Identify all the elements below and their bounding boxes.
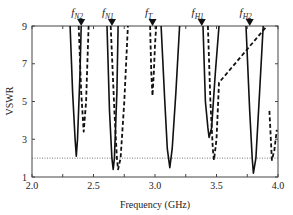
series-dashed: [111, 26, 128, 169]
y-axis-label: VSWR: [4, 86, 15, 115]
y-tick-label: 5: [22, 96, 27, 107]
y-tick-label: 1: [22, 172, 27, 183]
y-tick-label: 7: [22, 58, 27, 69]
y-tick-label: 3: [22, 134, 27, 145]
x-tick-label: 2.0: [26, 180, 39, 191]
marker-label: fN1: [102, 6, 114, 21]
marker-label: fH1: [192, 6, 204, 21]
marker-label: fH2: [240, 6, 252, 21]
x-tick-label: 3.0: [149, 180, 162, 191]
series-dashed: [269, 111, 276, 160]
vswr-chart: fN2fN1fTfH1fH2 2.02.53.03.54.013579 Freq…: [0, 0, 293, 215]
x-tick-label: 3.5: [210, 180, 223, 191]
marker-label: fN2: [71, 6, 83, 21]
x-tick-label: 4.0: [272, 180, 285, 191]
frequency-markers: fN2fN1fTfH1fH2: [71, 6, 253, 26]
series-group: [70, 26, 277, 173]
x-axis-label: Frequency (GHz): [120, 199, 190, 211]
series-dashed: [79, 26, 89, 132]
y-tick-label: 9: [22, 21, 27, 32]
series-solid: [161, 26, 180, 168]
series-dashed: [150, 26, 156, 96]
x-tick-label: 2.5: [87, 180, 100, 191]
axis-ticks: 2.02.53.03.54.013579: [22, 21, 284, 192]
marker-label: fT: [145, 6, 153, 21]
series-solid: [107, 26, 118, 169]
